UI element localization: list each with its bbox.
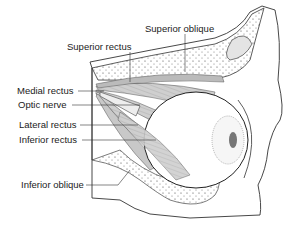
label-lateral-rectus: Lateral rectus	[19, 120, 77, 130]
label-superior-rectus: Superior rectus	[67, 42, 131, 52]
iris	[212, 116, 244, 164]
label-inferior-oblique: Inferior oblique	[21, 180, 84, 190]
label-optic-nerve: Optic nerve	[18, 100, 67, 110]
label-inferior-rectus: Inferior rectus	[19, 135, 77, 145]
label-superior-oblique: Superior oblique	[145, 24, 214, 34]
pupil	[229, 132, 237, 148]
label-medial-rectus: Medial rectus	[17, 86, 74, 96]
